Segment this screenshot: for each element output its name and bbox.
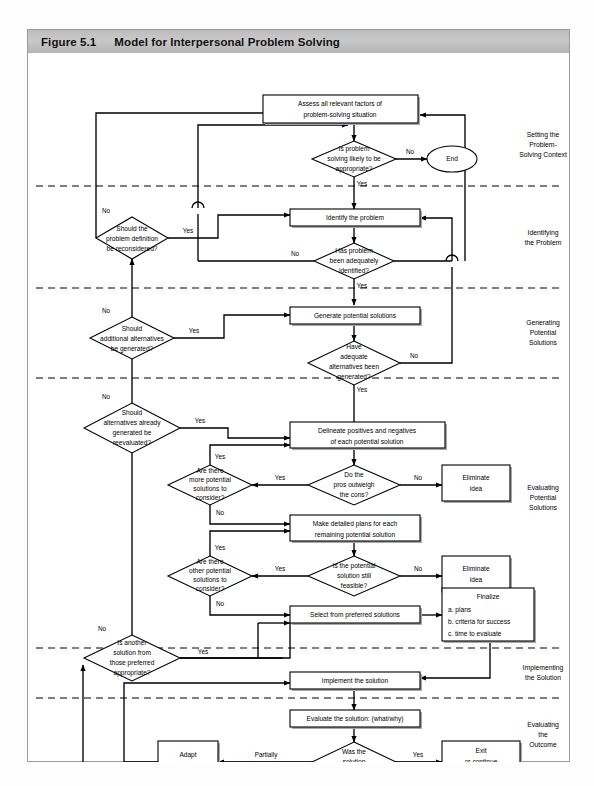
node-should-alt[interactable]: Should additional alternatives be genera… bbox=[90, 317, 174, 359]
node-should-redefine-line2: problem definition bbox=[106, 235, 158, 243]
node-assess-line2: problem-solving situation bbox=[304, 111, 377, 119]
section-implementing-line1: Implementing bbox=[523, 664, 564, 672]
node-finalize[interactable]: Finalize a. plans b. criteria for succes… bbox=[442, 588, 536, 643]
edge-label-yes-6: Yes bbox=[195, 417, 205, 424]
section-generating-line2: Potential bbox=[530, 329, 557, 336]
node-should-reeval-line3: generated be bbox=[113, 429, 152, 437]
node-is-another-line4: appropriate? bbox=[113, 669, 150, 677]
node-have-adequate-line3: alternatives been bbox=[329, 363, 380, 370]
node-assess[interactable]: Assess all relevant factors of problem-s… bbox=[263, 95, 420, 125]
node-have-adequate-line4: generated? bbox=[337, 373, 371, 381]
edge-label-no-10: No bbox=[216, 600, 225, 607]
edge-right-return-assess bbox=[420, 115, 465, 261]
edge-label-no-9: No bbox=[414, 565, 423, 572]
section-evaluating-line1: Evaluating bbox=[527, 484, 559, 492]
node-eliminate-1-line1: Eliminate bbox=[462, 474, 489, 481]
node-adapt-line1: Adapt bbox=[179, 751, 196, 759]
node-is-another[interactable]: Is another solution from those preferred… bbox=[84, 635, 180, 681]
node-finalize-item-0: a. plans bbox=[448, 606, 472, 614]
node-was-successful[interactable]: Was the solution successful? bbox=[312, 742, 396, 762]
node-was-successful-line2: solution bbox=[343, 758, 366, 762]
edge-finalize-implement bbox=[420, 643, 490, 678]
node-exit[interactable]: Exit or continue implementation bbox=[442, 741, 522, 762]
node-other-potential-line2: other potential bbox=[189, 567, 231, 575]
node-still-feasible-line2: solution still bbox=[337, 572, 372, 579]
section-outcome-line1: Evaluating bbox=[527, 721, 559, 729]
node-should-reeval[interactable]: Should alternatives already generated be… bbox=[84, 403, 180, 453]
edge-label-yes-8: Yes bbox=[275, 474, 285, 481]
node-delineate[interactable]: Delineate positives and negatives of eac… bbox=[290, 422, 447, 450]
node-is-problem-line1: Is problem bbox=[339, 145, 370, 153]
node-end-label: End bbox=[446, 155, 458, 162]
node-generate[interactable]: Generate potential solutions bbox=[290, 307, 422, 326]
node-exit-line1: Exit bbox=[476, 747, 487, 754]
node-is-problem[interactable]: Is problem solving likely to be appropri… bbox=[312, 141, 396, 177]
node-eliminate-1-line2: idea bbox=[470, 485, 483, 492]
node-end[interactable]: End bbox=[427, 146, 477, 172]
node-pros-cons-line2: pros outweigh bbox=[333, 481, 374, 489]
section-implementing-line2: the Solution bbox=[525, 674, 561, 681]
node-has-problem-line3: identified? bbox=[339, 267, 369, 274]
edge-label-no-4: No bbox=[102, 307, 111, 314]
node-pros-cons-line3: the cons? bbox=[340, 491, 369, 498]
section-identifying-line2: the Problem bbox=[525, 239, 562, 246]
node-adapt[interactable]: Adapt solution bbox=[158, 741, 220, 762]
node-have-adequate-line1: Have bbox=[346, 343, 362, 350]
edge-another-yes-select-a bbox=[180, 623, 290, 658]
node-should-redefine[interactable]: Should the problem definition be reconsi… bbox=[96, 217, 168, 259]
section-label-identifying: Identifying the Problem bbox=[525, 229, 562, 246]
edge-label-no-8: No bbox=[216, 509, 225, 516]
edge-label-yes-4: Yes bbox=[189, 327, 199, 334]
node-should-alt-line2: additional alternatives bbox=[100, 335, 164, 342]
node-implement[interactable]: Implement the solution bbox=[290, 672, 422, 691]
edge-label-no-2: No bbox=[102, 207, 111, 214]
node-select[interactable]: Select from preferred solutions bbox=[290, 606, 422, 625]
section-evaluating-line3: Solutions bbox=[529, 504, 558, 511]
node-more-potential[interactable]: Are there more potential solutions to co… bbox=[168, 465, 252, 505]
edge-label-yes-2: Yes bbox=[183, 227, 193, 234]
figure-page: Figure 5.1 Model for Interpersonal Probl… bbox=[0, 0, 594, 786]
node-identify[interactable]: Identify the problem bbox=[290, 209, 422, 228]
section-identifying-line1: Identifying bbox=[528, 229, 559, 237]
node-make-plans[interactable]: Make detailed plans for each remaining p… bbox=[290, 515, 422, 543]
node-other-potential-line4: consider? bbox=[196, 585, 225, 592]
node-still-feasible[interactable]: Is the potential solution still feasible… bbox=[308, 556, 400, 596]
edge-label-yes-11: Yes bbox=[198, 648, 208, 655]
node-eliminate-1[interactable]: Eliminate idea bbox=[442, 465, 512, 503]
node-should-reeval-line2: alternatives already bbox=[103, 419, 161, 427]
figure-frame: Figure 5.1 Model for Interpersonal Probl… bbox=[27, 29, 570, 762]
node-finalize-item-2: c. time to evaluate bbox=[448, 630, 502, 637]
edge-right-return-identify bbox=[420, 218, 452, 261]
node-has-problem[interactable]: Has problem been adequately identified? bbox=[314, 243, 394, 279]
edge-label-yes-3: Yes bbox=[357, 282, 367, 289]
flowchart-svg: Assess all relevant factors of problem-s… bbox=[28, 53, 571, 762]
node-have-adequate-line2: adequate bbox=[340, 353, 368, 361]
node-has-problem-line1: Has problem bbox=[335, 247, 373, 255]
section-label-implementing: Implementing the Solution bbox=[523, 664, 564, 681]
section-labels: Setting the Problem- Solving Context Ide… bbox=[519, 131, 567, 748]
node-is-problem-line3: appropriate? bbox=[335, 165, 372, 173]
node-should-reeval-line4: reevaluated? bbox=[113, 439, 151, 446]
node-other-potential[interactable]: Are there other potential solutions to c… bbox=[168, 556, 252, 596]
node-still-feasible-line3: feasible? bbox=[341, 582, 368, 589]
node-more-potential-line3: solutions to bbox=[193, 485, 227, 492]
node-implement-label: Implement the solution bbox=[322, 677, 389, 685]
section-label-outcome: Evaluating the Outcome bbox=[527, 721, 559, 748]
edge-label-yes-9: Yes bbox=[215, 544, 225, 551]
edge-reeval-yes-delineate bbox=[180, 428, 290, 438]
node-assess-line1: Assess all relevant factors of bbox=[298, 100, 382, 107]
edge-label-yes-10: Yes bbox=[275, 565, 285, 572]
node-more-potential-line4: consider? bbox=[196, 494, 225, 501]
edge-label-yes-exit: Yes bbox=[413, 751, 423, 758]
node-pros-cons[interactable]: Do the pros outweigh the cons? bbox=[308, 465, 400, 505]
section-label-generating: Generating Potential Solutions bbox=[526, 319, 560, 346]
node-more-potential-line2: more potential bbox=[189, 476, 231, 484]
section-label-setting: Setting the Problem- Solving Context bbox=[519, 131, 567, 159]
node-make-plans-line2: remaining potential solution bbox=[315, 531, 396, 539]
node-eliminate-2-line2: idea bbox=[470, 576, 483, 583]
node-has-problem-line2: been adequately bbox=[330, 257, 379, 265]
node-evaluate[interactable]: Evaluate the solution: (what/why) bbox=[290, 710, 422, 729]
node-eliminate-2-line1: Eliminate bbox=[462, 565, 489, 572]
figure-title: Model for Interpersonal Problem Solving bbox=[114, 36, 340, 48]
edge-label-no-7: No bbox=[414, 474, 423, 481]
